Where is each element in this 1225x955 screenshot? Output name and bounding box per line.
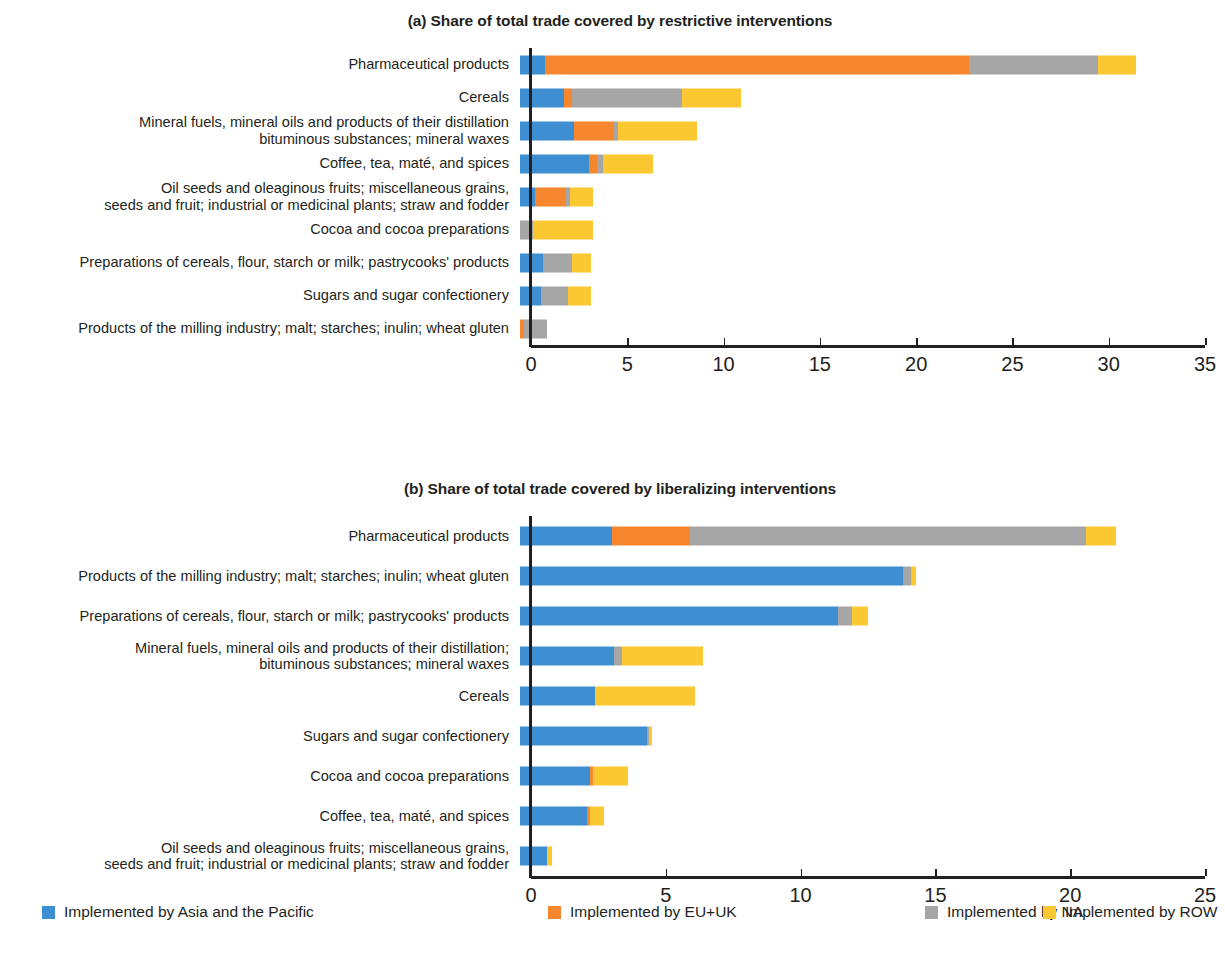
bar-segment-eu_uk: [574, 121, 614, 140]
bar-segment-na: [543, 253, 572, 272]
stacked-bar: [520, 647, 703, 666]
x-axis-tick: [801, 869, 803, 876]
panel-b-y-axis-spine: [529, 516, 532, 878]
x-axis-tick: [666, 869, 668, 876]
legend-swatch-icon: [42, 906, 55, 919]
category-label: Pharmaceutical products: [0, 528, 520, 544]
bar-row: Oil seeds and oleaginous fruits; miscell…: [0, 180, 1225, 213]
x-axis-tick: [1205, 338, 1207, 345]
legend-swatch-icon: [1043, 906, 1056, 919]
stacked-bar: [520, 687, 695, 706]
category-label: Cereals: [0, 89, 520, 105]
bar-segment-asia_pacific: [520, 55, 545, 74]
bar-segment-na: [903, 567, 911, 586]
bar-segment-na: [524, 319, 547, 338]
bar-track: [520, 279, 1225, 312]
stacked-bar: [520, 567, 916, 586]
stacked-bar: [520, 121, 697, 140]
bar-segment-asia_pacific: [520, 88, 564, 107]
bar-segment-eu_uk: [564, 88, 572, 107]
x-axis-tick: [916, 338, 918, 345]
x-axis-tick: [1070, 869, 1072, 876]
category-label: Cereals: [0, 688, 520, 704]
bar-track: [520, 676, 1225, 716]
legend-item-asia_pacific[interactable]: Implemented by Asia and the Pacific: [42, 903, 314, 921]
stacked-bar: [520, 527, 1116, 546]
panel-b-plot: Pharmaceutical productsProducts of the m…: [0, 516, 1225, 838]
bar-track: [520, 716, 1225, 756]
bar-row: Pharmaceutical products: [0, 516, 1225, 556]
bar-segment-eu_uk: [589, 154, 597, 173]
bar-row: Products of the milling industry; malt; …: [0, 556, 1225, 596]
bar-segment-na: [614, 647, 622, 666]
bar-segment-row: [1086, 527, 1116, 546]
bar-row: Cocoa and cocoa preparations: [0, 756, 1225, 796]
bar-segment-asia_pacific: [520, 567, 903, 586]
x-axis-tick: [935, 869, 937, 876]
bar-segment-row: [649, 727, 652, 746]
bar-segment-row: [533, 220, 593, 239]
bar-segment-eu_uk: [545, 55, 969, 74]
bar-segment-row: [570, 187, 593, 206]
bar-track: [520, 312, 1225, 345]
legend-swatch-icon: [548, 906, 561, 919]
bar-row: Cereals: [0, 81, 1225, 114]
category-label: Products of the milling industry; malt; …: [0, 320, 520, 336]
bar-segment-asia_pacific: [520, 847, 547, 866]
category-label: Preparations of cereals, flour, starch o…: [0, 608, 520, 624]
x-axis-tick-label: 25: [1001, 353, 1023, 376]
bar-row: Cereals: [0, 676, 1225, 716]
bar-segment-row: [568, 286, 591, 305]
panel-b-axis-line: [531, 876, 1205, 879]
x-axis-tick-label: 20: [905, 353, 927, 376]
panel-b-title: (b) Share of total trade covered by libe…: [100, 430, 1140, 498]
chart-panel-b: (b) Share of total trade covered by libe…: [0, 430, 1225, 885]
stacked-bar: [520, 727, 652, 746]
category-label: Pharmaceutical products: [0, 56, 520, 72]
category-label: Sugars and sugar confectionery: [0, 728, 520, 744]
bar-segment-na: [838, 607, 851, 626]
bar-segment-row: [852, 607, 868, 626]
legend-label: Implemented by ROW: [1065, 903, 1217, 921]
legend-label: Implemented by EU+UK: [570, 903, 737, 921]
x-axis-tick-label: 10: [712, 353, 734, 376]
bar-track: [520, 246, 1225, 279]
category-label: Coffee, tea, maté, and spices: [0, 155, 520, 171]
bar-segment-na: [572, 88, 682, 107]
x-axis-tick-label: 35: [1194, 353, 1216, 376]
x-axis-tick-label: 15: [809, 353, 831, 376]
bar-track: [520, 180, 1225, 213]
bar-segment-row: [682, 88, 742, 107]
bar-track: [520, 596, 1225, 636]
bar-row: Mineral fuels, mineral oils and products…: [0, 636, 1225, 676]
bar-segment-eu_uk: [535, 187, 566, 206]
bar-track: [520, 796, 1225, 836]
bar-track: [520, 836, 1225, 876]
category-label: Mineral fuels, mineral oils and products…: [0, 640, 520, 672]
category-label: Coffee, tea, maté, and spices: [0, 808, 520, 824]
panel-a-y-axis-spine: [529, 48, 532, 347]
bar-segment-asia_pacific: [520, 727, 647, 746]
stacked-bar: [520, 767, 628, 786]
panel-b-rows: Pharmaceutical productsProducts of the m…: [0, 516, 1225, 876]
x-axis-tick-label: 5: [622, 353, 633, 376]
bar-segment-row: [622, 647, 703, 666]
stacked-bar: [520, 807, 604, 826]
category-label: Mineral fuels, mineral oils and products…: [0, 114, 520, 146]
bar-segment-row: [590, 807, 603, 826]
panel-a-rows: Pharmaceutical productsCerealsMineral fu…: [0, 48, 1225, 345]
x-axis-tick: [1012, 338, 1014, 345]
legend-item-eu_uk[interactable]: Implemented by EU+UK: [548, 903, 737, 921]
legend-label: Implemented by Asia and the Pacific: [64, 903, 314, 921]
bar-track: [520, 48, 1225, 81]
panel-a-title: (a) Share of total trade covered by rest…: [100, 0, 1140, 30]
x-axis-tick: [724, 338, 726, 345]
bar-row: Preparations of cereals, flour, starch o…: [0, 596, 1225, 636]
stacked-bar: [520, 847, 552, 866]
bar-segment-row: [572, 253, 591, 272]
bar-segment-asia_pacific: [520, 253, 543, 272]
x-axis-tick: [1109, 338, 1111, 345]
legend-item-row[interactable]: Implemented by ROW: [1043, 903, 1217, 921]
x-axis-tick: [627, 338, 629, 345]
category-label: Oil seeds and oleaginous fruits; miscell…: [0, 840, 520, 872]
